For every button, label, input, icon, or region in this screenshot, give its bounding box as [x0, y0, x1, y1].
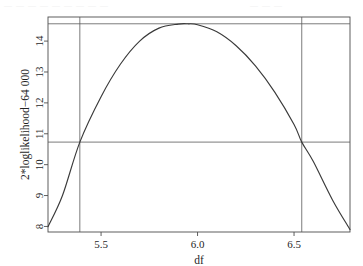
y-tick-label: 12	[33, 97, 45, 108]
x-tick-label: 5.5	[94, 238, 108, 250]
loglikelihood-curve	[48, 24, 350, 230]
x-axis-title: df	[194, 254, 204, 266]
x-tick-label: 6.0	[191, 238, 205, 250]
y-tick-label: 14	[33, 35, 45, 47]
y-tick-label: 8	[33, 223, 45, 229]
plot-frame	[48, 17, 350, 232]
y-tick-label: 10	[33, 159, 45, 171]
x-tick-label: 6.5	[287, 238, 301, 250]
y-tick-label: 11	[33, 128, 45, 139]
profile-likelihood-figure: — — — — — — — — — — — — 5.56.06.58910111…	[0, 0, 363, 266]
y-axis-title: 2*loglikelihood−64 000	[19, 69, 32, 180]
y-tick-label: 13	[33, 66, 45, 78]
y-tick-label: 9	[33, 192, 45, 198]
chart-canvas: 5.56.06.5891011121314df2*loglikelihood−6…	[0, 0, 363, 266]
